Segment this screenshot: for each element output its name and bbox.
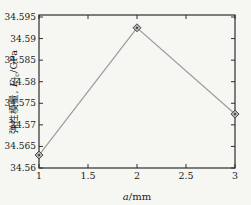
y-tick-label: 34.56: [10, 163, 36, 173]
y-axis-label-symbol: E: [8, 79, 19, 87]
y-axis-label-subscript: fc: [13, 73, 21, 79]
figure-elastic-modulus-chart: 11.522.5334.5634.56534.5734.57534.5834.5…: [0, 0, 251, 205]
y-tick-label: 34.565: [5, 141, 37, 151]
axes-frame: [39, 15, 235, 168]
chart-canvas: 11.522.5334.5634.56534.5734.57534.5834.5…: [0, 0, 251, 205]
y-axis-label: 弹性模量, Efc/GPa: [6, 50, 21, 134]
data-point-dot: [234, 113, 236, 115]
x-tick-label: 1: [36, 170, 42, 181]
x-tick-label: 2.5: [178, 170, 193, 181]
y-axis-label-unit: /GPa: [8, 50, 19, 73]
y-tick-label: 34.595: [5, 12, 37, 22]
data-point-dot: [136, 27, 138, 29]
y-axis-label-cjk: 弹性模量,: [8, 90, 19, 134]
data-line: [39, 28, 235, 155]
x-tick-label: 3: [232, 170, 238, 181]
x-tick-label: 2: [134, 170, 140, 181]
data-point-dot: [38, 154, 40, 156]
x-axis-label: a/mm: [123, 191, 151, 202]
y-tick-label: 34.59: [10, 34, 36, 44]
x-tick-label: 1.5: [80, 170, 95, 181]
x-axis-label-unit: /mm: [129, 191, 151, 202]
